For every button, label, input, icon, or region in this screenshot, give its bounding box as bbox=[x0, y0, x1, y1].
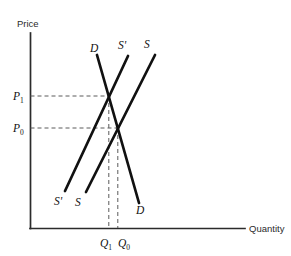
y-tick-p1-sub: 1 bbox=[20, 96, 24, 105]
supply-demand-chart: Price Quantity D S' S S' S D P1 P0 Q1 Q0 bbox=[0, 0, 291, 256]
supply-curve-label-top: S bbox=[144, 38, 150, 50]
supply-curve-label-bottom: S bbox=[75, 196, 81, 208]
demand-curve-label-top: D bbox=[89, 42, 99, 54]
y-tick-p1-base: P bbox=[12, 90, 20, 102]
y-tick-p0-base: P bbox=[12, 122, 20, 134]
supply-shifted-label-bottom: S' bbox=[54, 195, 63, 207]
supply-shifted-label-top: S' bbox=[118, 39, 127, 51]
x-tick-q0: Q0 bbox=[118, 237, 130, 252]
y-tick-p0-sub: 0 bbox=[20, 128, 24, 137]
y-tick-p1: P1 bbox=[12, 90, 24, 105]
y-tick-p0: P0 bbox=[12, 122, 24, 137]
x-tick-q1: Q1 bbox=[100, 237, 112, 252]
y-axis-label: Price bbox=[17, 18, 39, 29]
demand-curve-label-bottom: D bbox=[135, 204, 145, 216]
diagram-canvas: Price Quantity D S' S S' S D P1 P0 Q1 Q0 bbox=[0, 0, 291, 256]
x-tick-q1-sub: 1 bbox=[108, 243, 112, 252]
x-tick-q0-sub: 0 bbox=[126, 243, 130, 252]
x-axis-label: Quantity bbox=[249, 223, 285, 234]
